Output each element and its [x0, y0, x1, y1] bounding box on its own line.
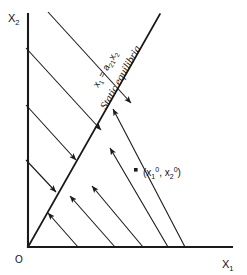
initial-point-marker: [134, 168, 138, 172]
trajectory-arrow-lr-1: [48, 213, 78, 247]
trajectory-arrow-lr-3: [92, 186, 143, 247]
origin-label: O: [15, 254, 23, 265]
trajectory-arrow-lr-2: [70, 196, 115, 247]
x-axis-label: X1: [222, 258, 234, 273]
phase-plane-figure: X2 X1 O x1 = a21x2 Static equilibria (x1…: [0, 0, 247, 275]
diagram-canvas: X2 X1 O x1 = a21x2 Static equilibria (x1…: [0, 0, 247, 275]
trajectory-arrow-ul-3: [26, 105, 76, 160]
y-axis-label: X2: [8, 12, 20, 27]
trajectory-arrow-ul-4: [26, 160, 56, 192]
initial-point-label: (x10, x20): [143, 166, 181, 180]
trajectory-arrow-lr-5: [113, 109, 185, 247]
trajectory-group-upper-left: [26, 12, 131, 192]
trajectory-group-lower-right: [48, 109, 185, 247]
